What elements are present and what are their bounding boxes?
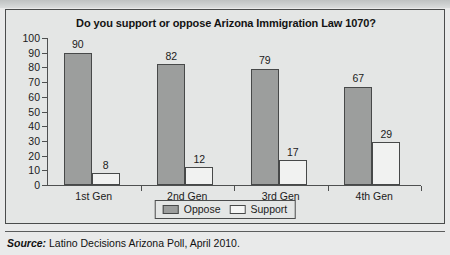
y-axis-tick [42,97,47,98]
bar-value-label: 8 [92,160,120,171]
bar-value-label: 79 [251,55,279,66]
bar-support-1st-gen [92,173,120,185]
legend-item-oppose: Oppose [163,203,221,215]
y-axis-line [47,38,48,186]
legend-swatch-support [230,205,246,214]
y-axis-tick-label: 90 [28,47,40,58]
y-axis-tick-label: 70 [28,77,40,88]
y-axis-tick-label: 30 [28,136,40,147]
x-axis-category-label: 1st Gen [47,190,141,202]
y-axis-tick [42,156,47,157]
legend-label: Support [251,203,288,215]
bar-oppose-2nd-gen [157,64,185,185]
y-axis-tick-label: 10 [28,165,40,176]
bar-value-label: 90 [64,39,92,50]
y-axis-tick-label: 20 [28,150,40,161]
source-body: Latino Decisions Arizona Poll, April 201… [46,237,240,249]
bar-value-label: 82 [157,51,185,62]
bar-value-label: 29 [372,129,400,140]
bar-support-3rd-gen [279,160,307,185]
y-axis-tick [42,141,47,142]
bar-support-2nd-gen [185,167,213,185]
bar-value-label: 12 [185,154,213,165]
cut-off-header-strip [0,0,450,8]
chart-figure: Do you support or oppose Arizona Immigra… [0,0,450,255]
source-divider [5,231,445,232]
bar-support-4th-gen [372,142,400,185]
chart-title: Do you support or oppose Arizona Immigra… [6,17,446,29]
bar-value-label: 67 [344,73,372,84]
y-axis-tick [42,112,47,113]
y-axis-tick [42,170,47,171]
source-note: Source: Latino Decisions Arizona Poll, A… [7,237,240,249]
y-axis-tick-label: 100 [22,33,40,44]
x-axis-tick [421,186,422,191]
plot-area: 0102030405060708090100 908821279176729 1… [47,38,421,186]
y-axis-tick-label: 40 [28,121,40,132]
source-label: Source: [7,237,46,249]
x-axis-category-label: 4th Gen [328,190,422,202]
y-axis-tick [42,53,47,54]
y-axis-tick-label: 50 [28,106,40,117]
legend-item-support: Support [230,203,288,215]
y-axis-tick [42,185,47,186]
chart-panel: Do you support or oppose Arizona Immigra… [5,9,445,224]
y-axis-tick-label: 60 [28,92,40,103]
legend-swatch-oppose [163,205,179,214]
y-axis-tick [42,82,47,83]
y-axis-tick [42,126,47,127]
legend-label: Oppose [184,203,221,215]
bar-oppose-1st-gen [64,53,92,185]
y-axis-tick-label: 80 [28,62,40,73]
chart-legend: OpposeSupport [155,200,296,219]
bar-oppose-3rd-gen [251,69,279,185]
y-axis-tick [42,38,47,39]
y-axis-tick-label: 0 [34,180,40,191]
bar-oppose-4th-gen [344,87,372,185]
bar-value-label: 17 [279,147,307,158]
y-axis-tick [42,67,47,68]
